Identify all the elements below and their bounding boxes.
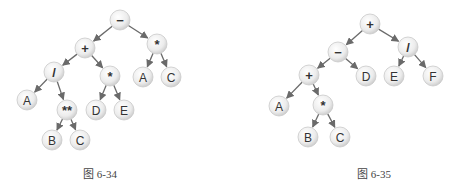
tree-edge-arrow: [63, 54, 77, 65]
tree-edge-arrow: [318, 58, 331, 68]
tree-node: +: [299, 65, 319, 85]
node-label: E: [390, 70, 398, 84]
tree-edge-arrow: [313, 84, 318, 95]
tree-node: /: [398, 37, 418, 57]
tree-node: C: [161, 67, 181, 87]
tree-edge-arrow: [35, 79, 47, 92]
tree-node: B: [298, 127, 318, 147]
node-label: A: [139, 71, 147, 85]
tree-node: +: [75, 38, 95, 58]
tree-nodes: +−/+DEFA*BC: [269, 14, 443, 147]
node-label: −: [334, 45, 342, 60]
tree-edge-arrow: [94, 26, 113, 41]
node-label: A: [23, 94, 31, 108]
node-label: C: [336, 131, 345, 145]
tree-node: C: [70, 130, 90, 150]
tree-node: A: [17, 90, 37, 110]
node-label: B: [48, 134, 56, 148]
tree-node: D: [86, 100, 106, 120]
tree-edge-arrow: [399, 56, 404, 66]
tree-node: −: [110, 10, 130, 30]
tree-node: C: [330, 127, 350, 147]
tree-node: E: [384, 66, 404, 86]
node-label: D: [92, 104, 101, 118]
tree-edge-arrow: [147, 53, 153, 67]
tree-edge-arrow: [328, 114, 335, 127]
node-label: B: [304, 131, 312, 145]
node-label: +: [305, 68, 313, 83]
node-label: F: [429, 70, 436, 84]
tree-node: **: [57, 100, 77, 120]
node-label: C: [76, 134, 85, 148]
tree-node: *: [147, 34, 167, 54]
tree-node: *: [313, 95, 333, 115]
tree-node: F: [423, 66, 443, 86]
tree-edge-arrow: [346, 31, 362, 45]
node-label: /: [406, 40, 410, 55]
tree-edge-arrow: [57, 81, 63, 99]
tree-node: *: [100, 66, 120, 86]
tree-edge-arrow: [100, 85, 106, 100]
figure-caption: 图 6-34: [83, 168, 117, 180]
tree-nodes: −+*/*ACA**DEBC: [17, 10, 181, 150]
tree-edge-arrow: [415, 55, 426, 68]
tree-node: +: [360, 14, 380, 34]
tree-node: −: [328, 42, 348, 62]
node-label: A: [275, 100, 283, 114]
tree-edge-arrow: [287, 82, 302, 98]
tree-edge-arrow: [379, 29, 399, 41]
node-label: +: [81, 41, 89, 56]
tree-edge-arrow: [313, 114, 319, 127]
tree-node: A: [269, 96, 289, 116]
tree-node: B: [42, 130, 62, 150]
tree-edge-arrow: [346, 59, 358, 69]
tree-edge-arrow: [161, 53, 167, 67]
tree-node: E: [114, 100, 134, 120]
node-label: D: [362, 70, 371, 84]
node-label: C: [167, 71, 176, 85]
node-label: E: [120, 104, 128, 118]
tree-node: D: [356, 66, 376, 86]
tree-edge-arrow: [92, 55, 103, 67]
node-label: −: [116, 13, 124, 28]
tree-edge-arrow: [71, 119, 76, 130]
tree-edge-arrow: [114, 85, 120, 100]
tree-edge-arrow: [57, 119, 63, 130]
expression-trees-canvas: −+*/*ACA**DEBC 图 6-34 +−/+DEFA*BC 图 6-35: [0, 0, 449, 186]
figure-caption: 图 6-35: [357, 168, 391, 180]
tree-node: /: [44, 62, 64, 82]
tree-edge-arrow: [128, 25, 147, 38]
tree-node: A: [133, 67, 153, 87]
node-label: **: [62, 103, 73, 118]
node-label: +: [366, 17, 374, 32]
figure-6-34: −+*/*ACA**DEBC 图 6-34: [17, 10, 181, 180]
node-label: /: [52, 65, 56, 80]
figure-6-35: +−/+DEFA*BC 图 6-35: [269, 14, 443, 180]
